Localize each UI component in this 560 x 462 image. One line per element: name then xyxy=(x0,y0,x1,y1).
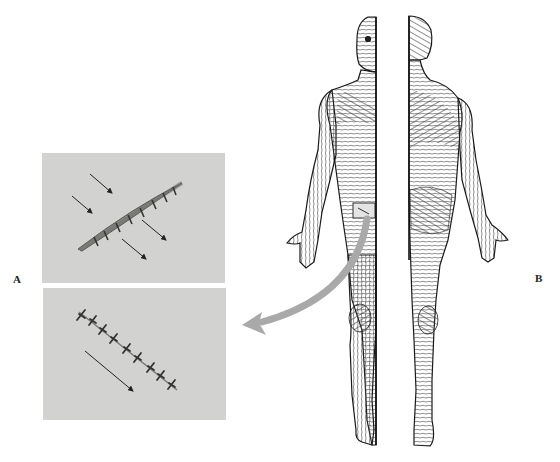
posterior-half-figure xyxy=(409,16,508,446)
marked-incision-region xyxy=(353,203,375,218)
skin-tension-lines-figure xyxy=(0,0,560,462)
